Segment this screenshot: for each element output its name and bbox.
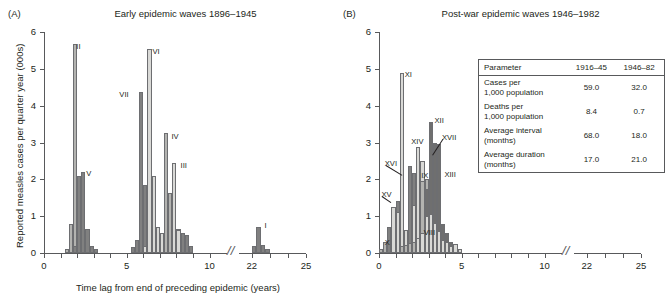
x-axis-tick [478, 254, 479, 258]
table-cell-value-1: 68.0 [569, 124, 617, 148]
y-axis-line [379, 32, 380, 253]
y-axis-tick-label: 1 [18, 210, 36, 221]
wave-label-xv: XV [381, 190, 391, 199]
x-axis-tick [462, 254, 463, 258]
y-axis-tick [375, 179, 379, 180]
wave-label-vii: VII [119, 90, 128, 99]
x-axis-tick [127, 254, 128, 258]
y-axis-tick-label: 5 [18, 63, 36, 74]
x-axis-tick [495, 254, 496, 258]
y-axis-tick [40, 106, 44, 107]
x-axis-tick-label: 22 [238, 260, 266, 271]
table-row: Average duration(months)17.021.0 [479, 148, 664, 172]
table-cell-parameter: Deaths per1,000 population [479, 100, 569, 124]
x-axis-line [379, 253, 641, 254]
wave-label-vi: VI [152, 47, 159, 56]
x-axis-tick [605, 254, 606, 258]
parameter-line-1: Average duration [484, 150, 565, 160]
parameter-line-1: Cases per [484, 78, 565, 88]
x-axis-tick [288, 254, 289, 258]
y-axis-tick-label: 1 [353, 210, 371, 221]
wave-label-xiv: XIV [411, 137, 423, 146]
measles-epidemic-histogram-figure: (A) Early epidemic waves 1896–1945 Repor… [0, 0, 670, 301]
x-axis-tick-label: 25 [627, 260, 655, 271]
x-axis-tick [160, 254, 161, 258]
x-axis-tick-label: 0 [30, 260, 58, 271]
x-axis-tick-label: 25 [292, 260, 320, 271]
table-row: Average interval(months)68.018.0 [479, 124, 664, 148]
x-axis-tick [77, 254, 78, 258]
wave-label-xvi: XVI [385, 159, 397, 168]
panel-b: (B) Post-war epidemic waves 1946–1982 Re… [335, 0, 670, 301]
x-axis-tick-label: 22 [573, 260, 601, 271]
y-axis-tick-label: 5 [353, 63, 371, 74]
table-header-parameter: Parameter [479, 60, 569, 76]
wave-label-iv: IV [171, 132, 178, 141]
table-cell-value-1: 17.0 [569, 148, 617, 172]
x-axis-tick [396, 254, 397, 258]
wave-label-v: V [86, 169, 91, 178]
x-axis-tick [545, 254, 546, 258]
table-cell-value-2: 0.7 [616, 100, 664, 124]
parameter-line-1: Average interval [484, 126, 565, 136]
x-axis-tick-label: 0 [365, 260, 393, 271]
table-cell-parameter: Average interval(months) [479, 124, 569, 148]
y-axis-tick [40, 216, 44, 217]
x-axis-tick [623, 254, 624, 258]
wave-label-xvii: XVII [442, 133, 456, 142]
axis-break-glyph: // [227, 244, 234, 257]
y-axis-tick [375, 69, 379, 70]
y-axis-tick [375, 216, 379, 217]
table-header-period-2: 1946–82 [616, 60, 664, 76]
y-axis-tick-label: 2 [353, 173, 371, 184]
wave-label-iii: III [181, 161, 187, 170]
parameter-line-2: (months) [484, 160, 565, 170]
wave-label-xii: XII [434, 116, 443, 125]
x-axis-tick [429, 254, 430, 258]
table-cell-parameter: Cases per1,000 population [479, 76, 569, 101]
y-axis-tick [375, 32, 379, 33]
table-cell-value-2: 32.0 [616, 76, 664, 101]
parameter-line-2: 1,000 population [484, 112, 565, 122]
table-cell-value-1: 59.0 [569, 76, 617, 101]
y-axis-tick [40, 32, 44, 33]
summary-table: Parameter 1916–45 1946–82 Cases per1,000… [479, 60, 664, 172]
y-axis-tick-label: 4 [353, 100, 371, 111]
table-body: Cases per1,000 population59.032.0Deaths … [479, 76, 664, 173]
x-axis-tick [587, 254, 588, 258]
wave-label-xi: XI [405, 70, 412, 79]
y-axis-tick [375, 143, 379, 144]
x-axis-tick [193, 254, 194, 258]
wave-label-ii: II [76, 42, 80, 51]
y-axis-line [44, 32, 45, 253]
table-header-row: Parameter 1916–45 1946–82 [479, 60, 664, 76]
table-row: Deaths per1,000 population8.40.7 [479, 100, 664, 124]
panel-a-plot-area: 012345605102225//IIVVIIVIIVIIII [0, 0, 335, 301]
y-axis-tick [40, 69, 44, 70]
x-axis-tick [61, 254, 62, 258]
x-axis-tick-label: 5 [448, 260, 476, 271]
x-axis-tick-label: 10 [196, 260, 224, 271]
wave-label-ix: IX [421, 171, 428, 180]
x-axis-tick [412, 254, 413, 258]
table-cell-parameter: Average duration(months) [479, 148, 569, 172]
x-axis-tick [379, 254, 380, 258]
wave-label-viii: VIII [424, 228, 435, 237]
table-header-period-1: 1916–45 [569, 60, 617, 76]
y-axis-tick-label: 2 [18, 173, 36, 184]
y-axis-tick-label: 3 [353, 137, 371, 148]
wave-label-i: I [264, 221, 266, 230]
histogram-bar [189, 246, 193, 253]
x-axis-tick [270, 254, 271, 258]
x-axis-tick-label: 5 [113, 260, 141, 271]
y-axis-tick [40, 179, 44, 180]
y-axis-tick-label: 0 [18, 247, 36, 258]
x-axis-tick [176, 254, 177, 258]
x-axis-tick [641, 254, 642, 258]
parameter-line-1: Deaths per [484, 102, 565, 112]
y-axis-tick-label: 6 [353, 26, 371, 37]
x-axis-tick [445, 254, 446, 258]
parameter-line-2: (months) [484, 136, 565, 146]
histogram-bar [412, 242, 416, 253]
histogram-bar [400, 73, 404, 253]
